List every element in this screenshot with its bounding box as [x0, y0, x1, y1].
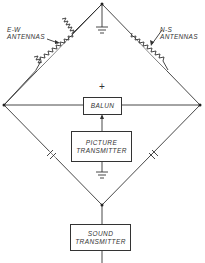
picture-label-line2: TRANSMITTER	[72, 147, 131, 155]
picture-ground-icon	[96, 161, 108, 178]
ns-label-line1: N-S	[160, 26, 198, 33]
ew-antenna-line	[4, 4, 102, 105]
top-node	[101, 3, 104, 6]
ns-label-line2: ANTENNAS	[160, 33, 198, 40]
picture-transmitter-block: PICTURE TRANSMITTER	[71, 131, 132, 162]
ew-label-line2: ANTENNAS	[7, 33, 45, 40]
right-node	[199, 104, 202, 107]
ns-antennas-label: N-S ANTENNAS	[160, 26, 198, 40]
balun-label: BALUN	[84, 102, 121, 110]
bottom-node	[101, 204, 104, 207]
sound-label-line2: TRANSMITTER	[71, 238, 130, 246]
ns-antenna-line	[102, 4, 200, 105]
sound-transmitter-block: SOUND TRANSMITTER	[70, 224, 131, 251]
sound-label-line1: SOUND	[71, 230, 130, 238]
ew-label-line1: E-W	[7, 26, 45, 33]
balun-block: BALUN	[83, 97, 122, 115]
ew-antennas-label: E-W ANTENNAS	[7, 26, 45, 40]
plus-sign: +	[99, 83, 105, 90]
left-node	[3, 104, 6, 107]
picture-label-line1: PICTURE	[72, 139, 131, 147]
